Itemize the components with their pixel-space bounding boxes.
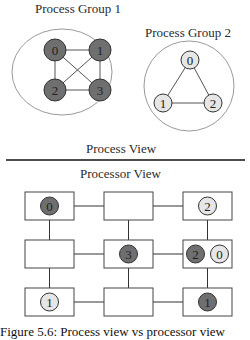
mapped-process-label: 3: [125, 247, 132, 262]
mapped-process-label: 1: [204, 295, 211, 310]
processor-box: [104, 192, 153, 220]
processor-box: [25, 240, 74, 268]
process-node-label: 0: [52, 43, 59, 58]
figure-caption: Figure 5.6: Process view vs processor vi…: [0, 324, 250, 340]
process-node-label: 2: [210, 96, 217, 111]
processor-box: [104, 288, 153, 316]
mapped-process-label: 1: [46, 295, 53, 310]
process-node-label: 3: [97, 83, 104, 98]
process-node-label: 1: [97, 43, 104, 58]
mapped-process-label: 0: [46, 199, 53, 214]
mapped-process-label: 0: [216, 247, 223, 262]
mapped-process-label: 2: [204, 199, 211, 214]
mapped-process-label: 2: [192, 247, 199, 262]
process-node-label: 2: [52, 83, 59, 98]
process-node-label: 1: [160, 96, 167, 111]
process-node-label: 0: [187, 53, 194, 68]
processor-grid: 0232011: [25, 192, 232, 316]
